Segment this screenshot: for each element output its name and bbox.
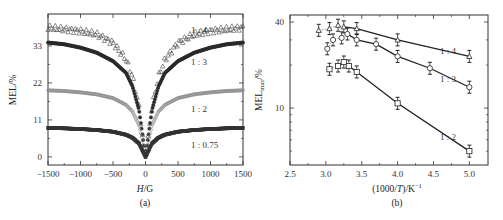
series-label-1-3-a: 1 : 3 (191, 57, 208, 67)
x-tick-label: 0 (143, 169, 148, 179)
data-point (395, 101, 400, 106)
data-point (64, 25, 68, 29)
x-tick-label: 3.5 (356, 169, 368, 179)
figure: −1500−1000−500050010001500 0112233 H/G M… (0, 0, 503, 220)
data-point (150, 110, 153, 113)
data-point (327, 67, 332, 72)
x-tick-label: 3.0 (320, 169, 332, 179)
x-tick-label: 4.0 (392, 169, 404, 179)
y-axis-label-b: MELmax/% (254, 69, 265, 111)
data-point (84, 27, 88, 31)
data-point (137, 106, 140, 109)
panel-caption-a: (a) (140, 198, 151, 209)
data-point (335, 23, 340, 28)
series-label-1-4-b: 1 : 4 (440, 46, 457, 56)
series-label-1-2-a: 1 : 2 (191, 104, 207, 114)
data-point (467, 85, 472, 90)
data-point (224, 24, 228, 28)
data-point (111, 41, 115, 45)
data-point (335, 63, 340, 68)
x-tick-label: 1500 (234, 169, 253, 179)
data-point (241, 41, 244, 44)
y-tick-label: 10 (275, 103, 285, 113)
y-tick-label: 40 (275, 17, 285, 27)
data-point (100, 33, 104, 37)
series-group-a (46, 23, 245, 159)
data-point (170, 51, 174, 55)
y-tick-label: 11 (33, 115, 42, 125)
data-point (346, 63, 351, 68)
panel-a: −1500−1000−500050010001500 0112233 H/G M… (8, 14, 253, 209)
data-point (89, 28, 93, 32)
data-point (230, 24, 234, 28)
data-point (138, 116, 141, 119)
y-tick-label: 0 (38, 152, 43, 162)
data-point (221, 28, 225, 32)
panel-caption-b: (b) (391, 198, 402, 209)
data-point (427, 66, 432, 71)
series-label-1-4-a: 1 : 4 (191, 25, 208, 35)
data-point (160, 64, 164, 68)
data-point (339, 35, 344, 40)
x-tick-label: 500 (171, 169, 185, 179)
data-point (149, 116, 152, 119)
y-tick-labels-a: 0112233 (33, 41, 43, 162)
data-point (146, 138, 149, 141)
panel-b: 2.53.03.54.04.55.0 1040 (1000/T)/K−1 MEL… (254, 15, 488, 209)
data-point (325, 46, 330, 51)
data-point (395, 54, 400, 59)
data-point (345, 31, 350, 36)
data-point (467, 149, 472, 154)
x-tick-label: −1000 (69, 169, 93, 179)
x-tick-label: 4.5 (428, 169, 440, 179)
x-tick-label: 1000 (202, 169, 221, 179)
y-tick-labels-b: 1040 (275, 17, 285, 113)
data-point (131, 77, 135, 81)
data-point (53, 23, 57, 27)
data-point (59, 24, 63, 28)
data-point (373, 42, 378, 47)
series-label-1-075-a: 1 : 0.75 (191, 140, 219, 150)
x-tick-label: 2.5 (284, 169, 296, 179)
x-tick-labels-b: 2.53.03.54.04.55.0 (284, 169, 475, 179)
data-point (330, 37, 335, 42)
data-point (130, 72, 134, 76)
series-label-1-3-b: 1 : 3 (440, 74, 457, 84)
data-point (341, 59, 346, 64)
data-point (327, 26, 332, 31)
data-point (95, 30, 99, 34)
data-point (235, 24, 239, 28)
x-tick-label: −1500 (36, 169, 60, 179)
data-point (354, 69, 359, 74)
x-tick-label: 5.0 (464, 169, 476, 179)
x-tick-labels-a: −1500−1000−500050010001500 (36, 169, 252, 179)
connector-line (327, 34, 347, 49)
data-point (142, 138, 145, 141)
data-point (316, 28, 321, 33)
x-axis-label-a: H/G (136, 184, 154, 194)
series-label-1-2-b: 1 : 2 (440, 132, 456, 142)
data-point (242, 127, 245, 130)
y-tick-label: 33 (33, 41, 43, 51)
series-14-a (46, 23, 245, 156)
data-point (354, 37, 359, 42)
x-tick-label: −500 (104, 169, 123, 179)
data-point (145, 144, 148, 147)
data-point (142, 144, 145, 147)
y-tick-label: 22 (33, 78, 42, 88)
x-axis-label-b: (1000/T)/K−1 (372, 182, 422, 195)
y-axis-label-a: MEL/% (8, 75, 18, 106)
data-point (138, 110, 141, 113)
